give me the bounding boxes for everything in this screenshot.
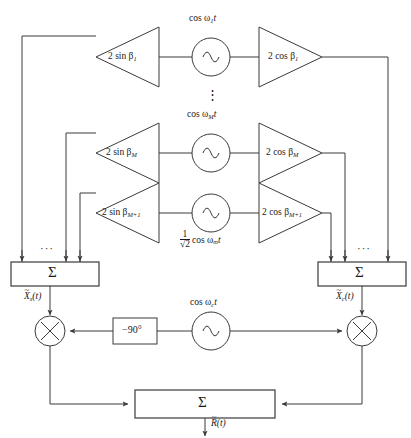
branchM-left-feed — [66, 133, 96, 268]
output-summer-symbol: Σ — [198, 395, 207, 410]
left-summer-symbol: Σ — [48, 265, 57, 280]
phase-shifter-label: −90° — [122, 325, 142, 335]
branch1-oscillator-label: cos ω1t — [189, 14, 216, 24]
right-summer-symbol: Σ — [355, 265, 364, 280]
branchM-sin-gain-label: 2 sin βM — [106, 148, 137, 158]
right-sum-output-label: ~Xc(t) — [336, 292, 354, 302]
right-mult-to-output-wire — [282, 346, 362, 404]
branch1-sin-gain-label: 2 sin β1 — [108, 52, 137, 62]
left-mult-to-output-wire — [50, 346, 128, 404]
branchM-oscillator-label: cos ωMt — [187, 110, 216, 120]
branch1-cos-gain-label: 2 cos β1 — [268, 52, 298, 62]
branch1-right-feed — [322, 57, 388, 268]
final-output-label: ~R(t) — [211, 419, 226, 429]
vertical-ellipsis: ⋮ — [206, 88, 219, 101]
carrier-oscillator-label: cos ωct — [190, 298, 217, 308]
branchM1-sin-gain-label: 2 sin βM+1 — [102, 208, 140, 218]
left-branch-ellipsis: ··· — [40, 243, 54, 254]
branchM1-left-feed — [80, 193, 96, 268]
branchM1-right-feed — [322, 213, 331, 268]
branchM1-oscillator-label: 1√2cos ωmt — [180, 230, 221, 251]
right-branch-ellipsis: ··· — [357, 243, 371, 254]
block-diagram-canvas — [0, 0, 411, 438]
branchM-cos-gain-label: 2 cos βM — [266, 148, 298, 158]
branchM1-cos-gain-label: 2 cos βM+1 — [262, 208, 302, 218]
branchM-right-feed — [322, 153, 345, 268]
oscillator-fraction: 1√2 — [180, 230, 190, 251]
branch1-left-feed — [22, 36, 96, 268]
left-sum-output-label: ~Xs(t) — [24, 292, 41, 302]
